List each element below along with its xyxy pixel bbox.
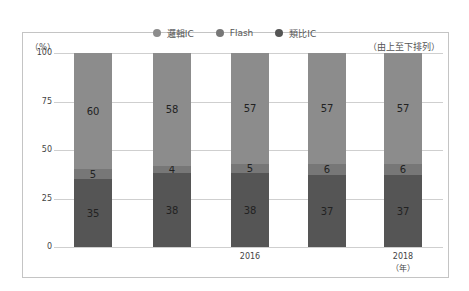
legend-swatch-icon — [153, 29, 161, 37]
bar-segment: 38 — [231, 173, 269, 247]
bar-segment: 37 — [308, 175, 346, 247]
legend-label: 邏輯IC — [167, 27, 194, 40]
data-label: 57 — [244, 103, 257, 114]
bar-segment: 57 — [308, 53, 346, 164]
gridline — [54, 247, 443, 248]
order-note: （由上至下排列） — [368, 40, 440, 53]
legend-item: 類比IC — [275, 26, 316, 40]
legend-label: Flash — [230, 28, 254, 38]
data-label: 37 — [397, 206, 410, 217]
y-tick-label: 75 — [28, 97, 52, 106]
legend-item: Flash — [216, 26, 254, 40]
x-tick-2016: 2016 — [230, 252, 270, 261]
y-tick-label: 100 — [28, 48, 52, 57]
bar-segment: 5 — [74, 169, 112, 179]
data-label: 35 — [87, 208, 100, 219]
bar-segment: 6 — [308, 164, 346, 176]
data-label: 57 — [397, 103, 410, 114]
data-label: 58 — [166, 104, 179, 115]
x-axis-unit: （年） — [383, 262, 423, 273]
data-label: 37 — [321, 206, 334, 217]
stacked-bar: 38458 — [153, 53, 191, 247]
stacked-bar: 37657 — [384, 53, 422, 247]
data-label: 6 — [324, 164, 330, 175]
bar-segment: 58 — [153, 53, 191, 166]
legend: 邏輯ICFlash類比IC — [0, 26, 469, 40]
data-label: 4 — [169, 164, 175, 175]
bar-segment: 35 — [74, 179, 112, 247]
bar-segment: 57 — [384, 53, 422, 164]
bar-segment: 37 — [384, 175, 422, 247]
legend-swatch-icon — [216, 29, 224, 37]
data-label: 5 — [90, 169, 96, 180]
y-tick-label: 50 — [28, 145, 52, 154]
bar-segment: 57 — [231, 53, 269, 164]
bar-segment: 38 — [153, 173, 191, 247]
bar-segment: 6 — [384, 164, 422, 176]
data-label: 6 — [400, 164, 406, 175]
legend-item: 邏輯IC — [153, 26, 194, 40]
stacked-bar: 35560 — [74, 53, 112, 247]
data-label: 38 — [166, 205, 179, 216]
data-label: 5 — [247, 163, 253, 174]
bar-segment: 4 — [153, 166, 191, 174]
bar-segment: 60 — [74, 53, 112, 169]
legend-swatch-icon — [275, 29, 283, 37]
data-label: 57 — [321, 103, 334, 114]
x-tick-2018: 2018 — [383, 252, 423, 261]
legend-label: 類比IC — [289, 27, 316, 40]
stacked-bar: 37657 — [308, 53, 346, 247]
bar-segment: 5 — [231, 164, 269, 174]
stacked-bar: 38557 — [231, 53, 269, 247]
y-tick-label: 25 — [28, 194, 52, 203]
data-label: 38 — [244, 205, 257, 216]
y-tick-label: 0 — [28, 242, 52, 251]
data-label: 60 — [87, 106, 100, 117]
